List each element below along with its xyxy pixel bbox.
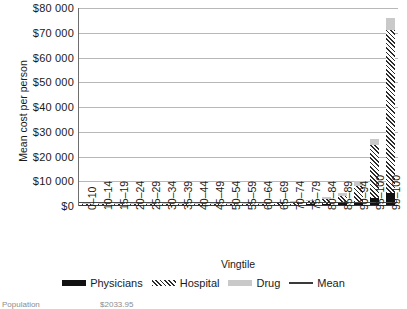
x-tick-slot: 75–79 [302, 208, 318, 258]
x-tick-slot: 70–74 [286, 208, 302, 258]
bar-slot [254, 8, 270, 206]
legend-item-physicians: Physicians [62, 277, 143, 289]
y-tick-label: $0 [61, 200, 74, 212]
bar-stack [194, 8, 203, 206]
bar-stack [98, 8, 107, 206]
x-tick-slot: 15–19 [110, 208, 126, 258]
bar-slot [239, 8, 255, 206]
bar-slot [350, 8, 366, 206]
bar-slot [175, 8, 191, 206]
drug-swatch-icon [228, 280, 252, 286]
hospital-swatch-icon [152, 280, 176, 286]
bar-stack [162, 8, 171, 206]
x-tick-label: 99–100 [390, 175, 402, 210]
legend-label-drug: Drug [256, 277, 280, 289]
legend-item-hospital: Hospital [152, 277, 220, 289]
x-tick-label: 40–44 [198, 181, 210, 210]
bar-stack [242, 8, 251, 206]
physicians-swatch-icon [62, 280, 86, 286]
bar-slot [191, 8, 207, 206]
x-tick-label: 15–19 [118, 181, 130, 210]
bar-slot [79, 8, 95, 206]
x-tick-slot: 20–24 [126, 208, 142, 258]
legend-item-mean: Mean [289, 277, 345, 289]
bar-stack [290, 8, 299, 206]
x-tick-slot: 40–44 [190, 208, 206, 258]
x-tick-label: 30–34 [166, 181, 178, 210]
x-tick-label: 95–100 [374, 175, 386, 210]
bar-stack [130, 8, 139, 206]
x-tick-slot: 60–64 [254, 208, 270, 258]
bar-stack [226, 8, 235, 206]
y-axis-tick-labels: $80 000$70 000$60 000$50 000$40 000$30 0… [6, 0, 78, 212]
bar-segment-hospital [386, 30, 395, 193]
chart-container: Mean cost per person $80 000$70 000$60 0… [0, 0, 407, 309]
x-tick-slot: 90–94 [350, 208, 366, 258]
x-tick-slot: 95–100 [366, 208, 382, 258]
x-tick-label: 0–10 [86, 187, 98, 210]
plot-area [78, 8, 398, 206]
bar-stack [322, 8, 331, 206]
legend-item-drug: Drug [228, 277, 280, 289]
bar-stack [274, 8, 283, 206]
x-tick-slot: 10–14 [94, 208, 110, 258]
x-tick-label: 65–69 [278, 181, 290, 210]
x-tick-slot: 0–10 [78, 208, 94, 258]
bar-slot [318, 8, 334, 206]
bar-slot [95, 8, 111, 206]
y-tick-label: $40 000 [33, 101, 74, 113]
bar-slot [334, 8, 350, 206]
bar-slot [127, 8, 143, 206]
x-tick-label: 80–84 [326, 181, 338, 210]
chart-legend: Physicians Hospital Drug Mean [0, 277, 407, 289]
y-tick-label: $50 000 [33, 76, 74, 88]
bar-stack [178, 8, 187, 206]
y-tick-label: $30 000 [33, 126, 74, 138]
bar-stack [114, 8, 123, 206]
x-tick-label: 70–74 [294, 181, 306, 210]
footnote-label: Population [2, 300, 40, 309]
x-tick-label: 55–59 [246, 181, 258, 210]
x-tick-label: 75–79 [310, 181, 322, 210]
bar-segment-drug [386, 18, 395, 30]
x-tick-label: 25–29 [150, 181, 162, 210]
bar-slot [270, 8, 286, 206]
y-tick-label: $20 000 [33, 151, 74, 163]
footnote-value: $2033.95 [100, 300, 133, 309]
y-tick-label: $10 000 [33, 175, 74, 187]
x-tick-slot: 45–49 [206, 208, 222, 258]
legend-label-hospital: Hospital [180, 277, 220, 289]
legend-label-mean: Mean [317, 277, 345, 289]
y-tick-label: $60 000 [33, 52, 74, 64]
x-axis-title: Vingtile [78, 258, 398, 270]
x-tick-label: 85–89 [342, 181, 354, 210]
x-tick-label: 60–64 [262, 181, 274, 210]
bar-stack [354, 8, 363, 206]
bar-slot [286, 8, 302, 206]
x-tick-slot: 85–89 [334, 208, 350, 258]
mean-swatch-icon [289, 282, 313, 284]
bar-stack [258, 8, 267, 206]
x-tick-slot: 80–84 [318, 208, 334, 258]
bar-series-group [79, 8, 398, 206]
bar-stack [146, 8, 155, 206]
x-tick-slot: 35–39 [174, 208, 190, 258]
x-tick-slot: 50–54 [222, 208, 238, 258]
x-tick-label: 20–24 [134, 181, 146, 210]
bar-slot [207, 8, 223, 206]
bar-slot [223, 8, 239, 206]
x-tick-label: 35–39 [182, 181, 194, 210]
bar-slot [302, 8, 318, 206]
bar-stack [210, 8, 219, 206]
x-tick-slot: 30–34 [158, 208, 174, 258]
x-tick-label: 10–14 [102, 181, 114, 210]
x-tick-slot: 55–59 [238, 208, 254, 258]
x-tick-label: 45–49 [214, 181, 226, 210]
x-tick-slot: 25–29 [142, 208, 158, 258]
y-tick-label: $80 000 [33, 2, 74, 14]
x-tick-slot: 99–100 [382, 208, 398, 258]
x-axis-tick-labels: 0–1010–1415–1920–2425–2930–3435–3940–444… [78, 208, 398, 258]
legend-label-physicians: Physicians [90, 277, 143, 289]
bar-slot [111, 8, 127, 206]
x-tick-label: 90–94 [358, 181, 370, 210]
